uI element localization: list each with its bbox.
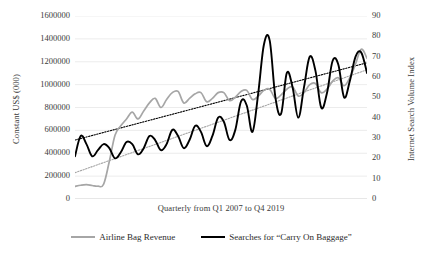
y-axis-left-tick-label: 200000 [18, 171, 70, 180]
y-axis-left-tick-label: 400000 [18, 148, 70, 157]
plot-svg [75, 16, 367, 199]
y-axis-right-tick-label: 40 [372, 113, 398, 122]
y-axis-right-tick-label: 50 [372, 92, 398, 101]
y-axis-left-tick-label: 1400000 [18, 34, 70, 43]
legend-label: Airline Bag Revenue [99, 232, 175, 242]
x-axis-title: Quarterly from Q1 2007 to Q4 2019 [75, 203, 367, 213]
y-axis-left-tick-label: 1600000 [18, 11, 70, 20]
trendline [75, 70, 367, 173]
legend-item-carry-on-baggage-searches: Searches for “Carry On Baggage” [201, 232, 351, 242]
chart-container: Constant US$ (000) Internet Search Volum… [0, 0, 423, 260]
y-axis-left-tick-label: 1000000 [18, 80, 70, 89]
y-axis-right-title: Internet Search Volume Index [406, 34, 416, 184]
gray-line-swatch [71, 236, 95, 238]
legend-label: Searches for “Carry On Baggage” [229, 232, 351, 242]
data-series-line [75, 35, 367, 159]
chart-legend: Airline Bag Revenue Searches for “Carry … [0, 228, 423, 246]
legend-item-airline-bag-revenue: Airline Bag Revenue [71, 232, 175, 242]
y-axis-left-tick-label: 800000 [18, 103, 70, 112]
y-axis-right-tick-label: 30 [372, 133, 398, 142]
y-axis-left-tick-label: 1200000 [18, 57, 70, 66]
y-axis-right-tick-label: 0 [372, 194, 398, 203]
y-axis-right-tick-label: 90 [372, 11, 398, 20]
y-axis-right-tick-label: 10 [372, 174, 398, 183]
y-axis-right-tick-label: 60 [372, 72, 398, 81]
y-axis-left-tick-label: 0 [18, 194, 70, 203]
black-line-swatch [201, 236, 225, 238]
y-axis-left-tick-label: 600000 [18, 125, 70, 134]
y-axis-right-tick-label: 70 [372, 52, 398, 61]
plot-area [75, 16, 367, 199]
y-axis-right-tick-label: 80 [372, 31, 398, 40]
data-series-group [75, 35, 367, 187]
y-axis-right-tick-label: 20 [372, 153, 398, 162]
